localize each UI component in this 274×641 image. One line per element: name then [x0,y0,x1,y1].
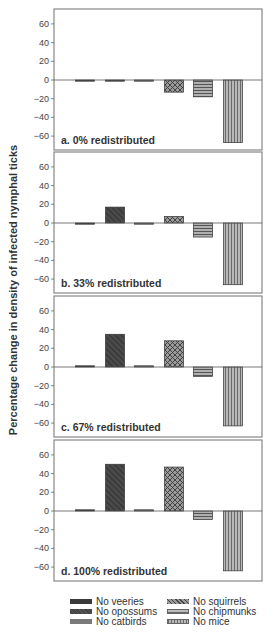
panel-b: 6040200−20−40−60b. 33% redistributed [34,152,262,293]
y-tick-label: 40 [39,181,49,191]
legend-item-catbirds: No catbirds [70,616,147,626]
y-tick-label: 60 [39,162,49,172]
y-tick-label: −40 [34,399,49,409]
y-tick-label: 20 [39,199,49,209]
y-tick-label: 20 [39,343,49,353]
bar-no-opossums [106,464,125,511]
chart-panels: 6040200−20−40−60a. 0% redistributed60402… [34,9,262,581]
bar-no-mice [224,367,243,426]
legend-label: No mice [193,616,230,627]
bar-no-squirrels [165,80,184,92]
y-tick-label: 0 [44,218,49,228]
y-tick-label: 60 [39,306,49,316]
bar-no-chipmunks [194,511,213,519]
bar-no-chipmunks [194,367,213,376]
panel-label: b. 33% redistributed [61,277,161,289]
panel-a: 6040200−20−40−60a. 0% redistributed [34,9,262,150]
legend-label: No catbirds [96,616,147,627]
swatch-solid-mid-icon [70,619,92,624]
y-tick-label: 0 [44,506,49,516]
bar-no-mice [224,80,243,143]
swatch-horizontal-icon [167,609,189,614]
y-tick-label: −60 [34,131,49,141]
legend-item-opossums: No opossums [70,606,157,616]
y-tick-label: 40 [39,325,49,335]
y-tick-label: 60 [39,19,49,29]
panel-label: c. 67% redistributed [61,421,161,433]
panel-c: 6040200−20−40−60c. 67% redistributed [34,296,262,437]
chart-figure: Percentage change in density of infected… [0,0,274,641]
y-tick-label: −60 [34,562,49,572]
panel-d: 6040200−20−40−60d. 100% redistributed [34,440,262,581]
swatch-diagonal-icon [70,609,92,614]
y-tick-label: −20 [34,525,49,535]
legend-item-chipmunks: No chipmunks [167,606,256,616]
y-tick-label: −40 [34,543,49,553]
y-tick-label: 40 [39,38,49,48]
y-tick-label: 0 [44,362,49,372]
y-tick-label: −60 [34,418,49,428]
y-tick-label: 60 [39,450,49,460]
y-tick-label: −20 [34,94,49,104]
y-tick-label: −40 [34,255,49,265]
legend-item-mice: No mice [167,616,230,626]
panel-label: a. 0% redistributed [61,134,155,146]
swatch-crosshatch-icon [167,599,189,604]
bar-no-opossums [106,334,125,367]
swatch-vertical-icon [167,619,189,624]
panel-label: d. 100% redistributed [61,565,167,577]
bar-no-mice [224,223,243,285]
bar-no-squirrels [165,216,184,223]
y-tick-label: −20 [34,237,49,247]
legend-item-squirrels: No squirrels [167,596,246,606]
bar-no-mice [224,511,243,571]
y-tick-label: 40 [39,469,49,479]
y-tick-label: 20 [39,487,49,497]
y-tick-label: 0 [44,75,49,85]
legend-item-veeries: No veeries [70,596,144,606]
bar-no-chipmunks [194,223,213,237]
bar-no-squirrels [165,467,184,511]
y-tick-label: −20 [34,381,49,391]
y-tick-label: −60 [34,274,49,284]
swatch-solid-dark-icon [70,599,92,604]
bar-no-squirrels [165,341,184,367]
y-tick-label: −40 [34,112,49,122]
y-axis-label: Percentage change in density of infected… [7,145,19,435]
bar-no-opossums [106,207,125,223]
y-tick-label: 20 [39,56,49,66]
bar-no-chipmunks [194,80,213,97]
